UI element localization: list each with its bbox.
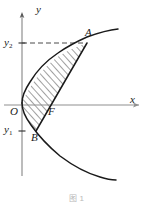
figure-container: y x y2 y1 O F A B 图 1 (0, 0, 153, 203)
y2-subscript: 2 (9, 42, 13, 50)
x-axis-label: x (130, 94, 135, 105)
figure-caption: 图 1 (0, 195, 153, 203)
y1-subscript: 1 (9, 129, 13, 137)
point-label-B: B (31, 132, 38, 143)
y-axis-label: y (36, 4, 41, 15)
point-label-A: A (85, 27, 92, 38)
point-label-O: O (10, 106, 18, 117)
point-label-F: F (48, 106, 55, 117)
y2-tick-label: y2 (4, 37, 12, 48)
y1-tick-label: y1 (4, 124, 12, 135)
